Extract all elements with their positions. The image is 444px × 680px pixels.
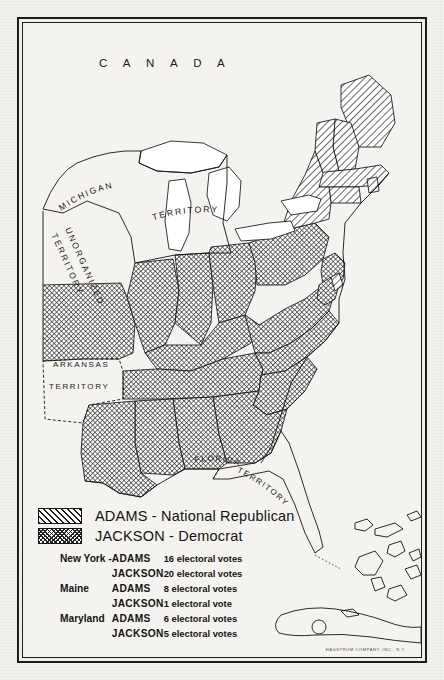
vote-count: 6 electoral votes [164, 613, 243, 628]
vote-state [60, 598, 112, 613]
swatch-jackson-icon [38, 528, 82, 544]
vote-candidate: JACKSON [112, 568, 164, 583]
vote-count: 1 electoral vote [164, 598, 243, 613]
legend-label-jackson: JACKSON - Democrat [95, 528, 243, 544]
legend-key-jackson: JACKSON - Democrat [38, 528, 338, 544]
table-row: JACKSON 20 electoral votes [60, 568, 242, 583]
vote-state [60, 628, 112, 643]
vote-count: 16 electoral votes [164, 553, 243, 568]
label-arkansas-territory: ARKANSAS [53, 360, 109, 369]
map-legend: ADAMS - National Republican JACKSON - De… [38, 508, 338, 643]
vote-state: Maine [60, 583, 112, 598]
vote-candidate: ADAMS [112, 583, 164, 598]
label-arkansas-territory-2: TERRITORY [49, 382, 109, 391]
table-row: JACKSON 5 electoral votes [60, 628, 242, 643]
table-row: Maryland ADAMS 6 electoral votes [60, 613, 242, 628]
table-row: JACKSON 1 electoral vote [60, 598, 242, 613]
vote-candidate: ADAMS [112, 553, 164, 568]
vote-state [60, 568, 112, 583]
vote-count: 5 electoral votes [164, 628, 243, 643]
vote-candidate: JACKSON [112, 628, 164, 643]
split-electoral-votes-table: New York - ADAMS 16 electoral votes JACK… [60, 553, 242, 643]
label-canada: C A N A D A [99, 57, 231, 69]
vote-state: New York - [60, 553, 112, 568]
vote-candidate: ADAMS [112, 613, 164, 628]
legend-label-adams: ADAMS - National Republican [95, 508, 295, 524]
swatch-adams-icon [38, 508, 82, 524]
vote-state: Maryland [60, 613, 112, 628]
legend-key-adams: ADAMS - National Republican [38, 508, 338, 524]
table-row: New York - ADAMS 16 electoral votes [60, 553, 242, 568]
vote-candidate: JACKSON [112, 598, 164, 613]
vote-count: 8 electoral votes [164, 583, 243, 598]
vote-count: 20 electoral votes [164, 568, 243, 583]
table-row: Maine ADAMS 8 electoral votes [60, 583, 242, 598]
publisher-credit: HAGSTROM COMPANY, INC., N.Y. [326, 647, 406, 652]
